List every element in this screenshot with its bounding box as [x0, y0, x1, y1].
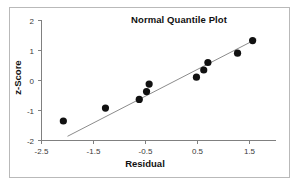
y-tick-label: 1 — [30, 47, 35, 56]
data-point — [200, 66, 207, 73]
data-point — [146, 81, 153, 88]
data-point — [234, 50, 241, 57]
chart-title: Normal Quantile Plot — [104, 14, 254, 25]
data-point — [60, 117, 67, 124]
data-point — [193, 74, 200, 81]
data-point — [249, 37, 256, 44]
x-tick-label: 1.5 — [244, 147, 256, 156]
y-tick-label: -2 — [27, 137, 35, 146]
data-point — [102, 105, 109, 112]
y-tick-label: 2 — [30, 17, 35, 26]
x-axis-title: Residual — [41, 158, 249, 169]
chart-figure: 2 1 0 -1 -2 -2.5 -1.5 -0.5 0.5 1.5 Norma… — [0, 0, 299, 185]
x-tick-label: -1.5 — [87, 147, 101, 156]
data-point — [143, 88, 150, 95]
data-point — [204, 59, 211, 66]
x-tick-labels: -2.5 -1.5 -0.5 0.5 1.5 — [35, 147, 256, 156]
y-tick-label: 0 — [30, 77, 35, 86]
reference-line — [68, 39, 257, 136]
y-axis-title: z-Score — [12, 48, 23, 108]
x-tick-label: -2.5 — [35, 147, 49, 156]
y-axis-ticks — [38, 21, 42, 141]
y-tick-label: -1 — [27, 107, 35, 116]
x-axis-ticks — [42, 141, 250, 145]
y-tick-labels: 2 1 0 -1 -2 — [27, 17, 35, 146]
data-point — [136, 96, 143, 103]
scatter-markers — [60, 37, 256, 125]
x-tick-label: -0.5 — [139, 147, 153, 156]
x-tick-label: 0.5 — [192, 147, 204, 156]
